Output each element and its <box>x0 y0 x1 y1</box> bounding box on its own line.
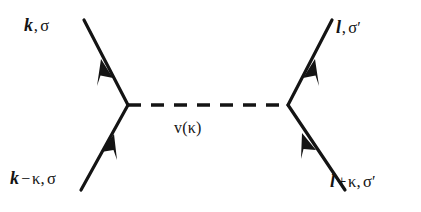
operator-symbol: − <box>20 170 32 187</box>
label-interaction-potential: v(κ) <box>174 120 202 136</box>
spin-prime-symbol: ′ <box>357 19 361 36</box>
momentum-symbol: k <box>10 168 20 188</box>
momentum-symbol: l <box>330 171 336 191</box>
spin-symbol: σ <box>363 172 372 191</box>
spin-prime-symbol: ′ <box>372 173 376 190</box>
operator-symbol: + <box>336 173 348 190</box>
fermion-line-upper-left <box>84 20 128 105</box>
spin-symbol: σ <box>47 169 56 188</box>
feynman-diagram-figure: k,σ l,σ′ k−κ,σ l+κ,σ′ v(κ) <box>0 0 421 212</box>
momentum-symbol: l <box>336 17 342 37</box>
fermion-line-upper-right <box>288 20 332 105</box>
label-outgoing-lower-right: l+κ,σ′ <box>330 172 376 191</box>
spin-symbol: σ <box>40 16 49 35</box>
label-outgoing-upper-right: l,σ′ <box>336 18 361 37</box>
label-incoming-lower-left: k−κ,σ <box>10 169 56 188</box>
momentum-symbol: k <box>24 15 34 35</box>
spin-symbol: σ <box>348 18 357 37</box>
label-incoming-upper-left: k,σ <box>24 16 49 35</box>
